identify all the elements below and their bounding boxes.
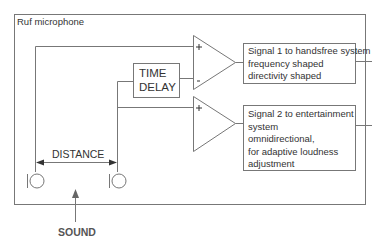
container-label: Ruf microphone <box>17 16 84 27</box>
distance-label: DISTANCE <box>52 148 104 160</box>
signal1-text: Signal 1 to handsfree system frequency s… <box>248 45 371 83</box>
amplifier2-triangle <box>194 97 236 152</box>
sound-arrow-icon <box>72 189 79 222</box>
microphone-right-icon <box>110 174 127 188</box>
sound-label: SOUND <box>58 226 96 238</box>
signal2-text: Signal 2 to entertainment system omnidir… <box>248 108 354 171</box>
microphone-left-icon <box>28 174 45 188</box>
time-delay-label: TIME DELAY <box>139 66 176 94</box>
mic2-signal-line <box>118 82 134 173</box>
